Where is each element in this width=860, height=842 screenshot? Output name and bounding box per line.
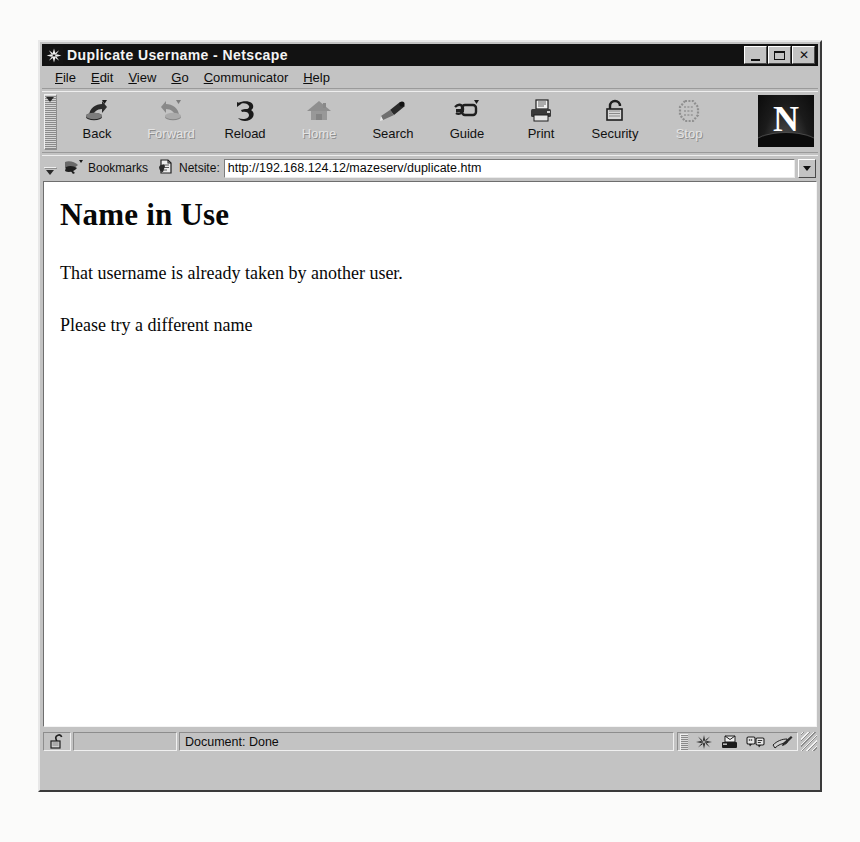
netsite-page-icon[interactable] <box>156 158 174 178</box>
menu-bar: File Edit View Go Communicator Help <box>42 67 818 88</box>
reload-icon <box>225 97 265 125</box>
navigator-compass-icon[interactable] <box>691 733 717 751</box>
bookmarks-button[interactable]: Bookmarks <box>60 158 156 178</box>
print-button[interactable]: Print <box>504 95 578 147</box>
reload-button[interactable]: Reload <box>208 95 282 147</box>
menu-item-view[interactable]: View <box>121 69 164 86</box>
netscape-logo[interactable]: N <box>758 95 814 147</box>
close-button[interactable]: ✕ <box>792 46 815 64</box>
newsgroups-icon[interactable] <box>743 733 769 751</box>
composer-pen-icon[interactable] <box>769 733 795 751</box>
menu-item-help[interactable]: Help <box>296 69 338 86</box>
print-button-label: Print <box>528 126 555 141</box>
html-document-body: Name in Use That username is already tak… <box>44 182 816 380</box>
back-button-label: Back <box>83 126 112 141</box>
url-history-dropdown-button[interactable] <box>798 159 816 178</box>
security-button[interactable]: Security <box>578 95 652 147</box>
menu-item-edit[interactable]: Edit <box>84 69 121 86</box>
close-icon: ✕ <box>793 47 814 63</box>
component-bar-grabber[interactable] <box>680 734 688 750</box>
navigation-toolbar: Back Forward <box>42 92 818 152</box>
security-button-label: Security <box>592 126 639 141</box>
menu-item-file[interactable]: File <box>48 69 84 86</box>
status-message-area: Document: Done <box>179 732 674 751</box>
netsite-group: Netsite: <box>156 158 224 178</box>
search-button[interactable]: Search <box>356 95 430 147</box>
status-text: Document: Done <box>185 735 279 749</box>
home-button-label: Home <box>302 126 337 141</box>
url-text: http://192.168.124.12/mazeserv/duplicate… <box>228 161 482 175</box>
netsite-label: Netsite: <box>179 161 220 175</box>
reload-button-label: Reload <box>224 126 265 141</box>
page-paragraph-2: Please try a different name <box>60 314 800 337</box>
forward-button-label: Forward <box>147 126 195 141</box>
print-icon <box>521 97 561 125</box>
url-input[interactable]: http://192.168.124.12/mazeserv/duplicate… <box>224 159 795 178</box>
title-bar: Duplicate Username - Netscape ✕ <box>42 44 818 66</box>
search-flashlight-icon <box>373 97 413 125</box>
back-button[interactable]: Back <box>60 95 134 147</box>
resize-grip[interactable] <box>801 732 817 751</box>
page-title: Name in Use <box>60 199 800 232</box>
home-button[interactable]: Home <box>282 95 356 147</box>
progress-meter <box>73 732 177 751</box>
guide-button-label: Guide <box>450 126 485 141</box>
location-toolbar: Bookmarks Netsite: http://192.168.124.12… <box>42 156 818 180</box>
page-content-frame: Name in Use That username is already tak… <box>43 181 817 727</box>
search-button-label: Search <box>372 126 413 141</box>
component-bar <box>677 732 798 751</box>
home-icon <box>299 97 339 125</box>
guide-button[interactable]: Guide <box>430 95 504 147</box>
forward-button[interactable]: Forward <box>134 95 208 147</box>
window-title: Duplicate Username - Netscape <box>67 47 288 63</box>
forward-arrow-icon <box>151 97 191 125</box>
menu-item-communicator[interactable]: Communicator <box>197 69 297 86</box>
chevron-down-icon <box>803 166 811 171</box>
stop-button-label: Stop <box>676 126 703 141</box>
unlocked-padlock-icon[interactable] <box>43 732 71 751</box>
logo-letter: N <box>773 101 799 137</box>
status-bar: Document: Done <box>43 730 817 753</box>
menu-item-go[interactable]: Go <box>164 69 196 86</box>
netscape-compass-icon <box>45 47 63 64</box>
page-paragraph-1: That username is already taken by anothe… <box>60 262 800 285</box>
inbox-mail-icon[interactable] <box>717 733 743 751</box>
bookmark-pointer-icon <box>62 159 84 178</box>
window-controls: ✕ <box>744 46 816 64</box>
minimize-button[interactable] <box>744 46 767 64</box>
logo-horizon <box>758 133 814 147</box>
location-toolbar-grabber[interactable] <box>44 167 57 169</box>
title-bar-filler[interactable] <box>288 44 744 66</box>
stop-button[interactable]: Stop <box>652 95 726 147</box>
back-arrow-icon <box>77 97 117 125</box>
navigation-toolbar-buttons: Back Forward <box>60 92 758 152</box>
netscape-browser-window: Duplicate Username - Netscape ✕ File Edi… <box>38 40 822 792</box>
navigation-toolbar-grabber[interactable] <box>44 94 57 150</box>
stop-sign-icon <box>669 97 709 125</box>
bookmarks-label: Bookmarks <box>88 161 148 175</box>
maximize-button[interactable] <box>768 46 791 64</box>
security-padlock-icon <box>595 97 635 125</box>
guide-icon <box>447 97 487 125</box>
